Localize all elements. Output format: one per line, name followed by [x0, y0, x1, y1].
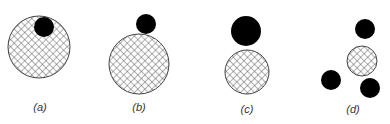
black-particle — [231, 16, 261, 46]
hatched-circle — [109, 34, 169, 94]
hatched-circle — [347, 46, 377, 76]
figure-diagram: (a) (b) (c) (d) — [0, 0, 390, 124]
black-particle-right — [360, 78, 380, 98]
panel-c: (c) — [225, 16, 269, 115]
black-particle — [34, 17, 54, 37]
hatched-circle — [225, 50, 269, 94]
black-particle — [136, 14, 156, 34]
panel-label: (d) — [346, 103, 360, 115]
panel-a: (a) — [8, 16, 70, 113]
panel-label: (a) — [33, 101, 47, 113]
panel-label: (c) — [241, 103, 254, 115]
black-particle-top — [355, 19, 375, 39]
black-particle-left — [321, 70, 341, 90]
panel-b: (b) — [109, 14, 169, 113]
panel-label: (b) — [132, 101, 146, 113]
panel-d: (d) — [321, 19, 380, 115]
